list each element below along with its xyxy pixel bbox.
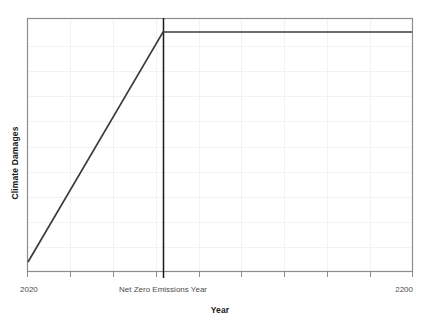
- chart-figure: Climate Damages Year 2020 Net Zero Emiss…: [0, 0, 431, 326]
- y-axis-title-wrap: Climate Damages: [8, 0, 22, 326]
- x-tick-label-2200: 2200: [395, 285, 413, 294]
- y-axis-title: Climate Damages: [8, 0, 22, 326]
- x-tick-label-2020: 2020: [20, 285, 38, 294]
- x-axis-title: Year: [27, 305, 413, 315]
- x-tick-label-net-zero: Net Zero Emissions Year: [119, 285, 207, 294]
- climate-damages-line-chart: [0, 0, 431, 326]
- plot-panel: [28, 19, 413, 272]
